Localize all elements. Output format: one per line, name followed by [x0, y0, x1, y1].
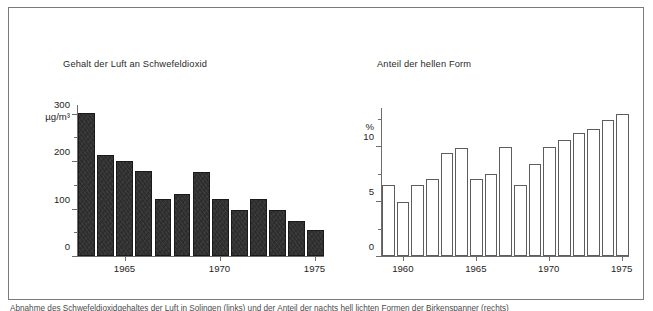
bar — [78, 113, 95, 256]
plot-area-morph: % 1960196519701975 0510 — [381, 108, 629, 257]
y-tick-label-morph: 10 — [363, 131, 374, 142]
y-tick-label-so2: 0 — [65, 241, 70, 252]
x-tick-label-morph: 1960 — [392, 263, 413, 274]
bar — [155, 199, 172, 256]
x-tick-so2 — [315, 257, 316, 261]
y-minor-tick-so2 — [74, 232, 77, 233]
bar — [307, 230, 324, 256]
y-minor-tick-morph — [378, 119, 381, 120]
y-tick-morph — [376, 146, 381, 147]
bar — [573, 133, 586, 256]
x-tick-so2 — [220, 257, 221, 261]
figure-frame: Gehalt der Luft an Schwefeldioxid µg/m³ … — [8, 7, 644, 300]
bar-group-morph — [382, 108, 629, 256]
y-minor-tick-so2 — [74, 185, 77, 186]
x-tick-label-so2: 1970 — [209, 263, 230, 274]
figure-caption: Abnahme des Schwefeldioxidgehaltes der L… — [10, 304, 630, 311]
bar — [485, 174, 498, 256]
x-tick-label-so2: 1975 — [304, 263, 325, 274]
y-tick-so2 — [72, 256, 77, 257]
x-tick-morph — [549, 257, 550, 261]
plot-area-so2: µg/m³ 196519701975 0100200300 — [77, 105, 324, 257]
chart-panel-so2: Gehalt der Luft an Schwefeldioxid µg/m³ … — [21, 8, 331, 299]
bar — [397, 202, 410, 256]
chart-title-so2: Gehalt der Luft an Schwefeldioxid — [63, 59, 207, 69]
x-tick-label-morph: 1970 — [538, 263, 559, 274]
y-tick-label-so2: 300 — [54, 98, 70, 109]
x-tick-morph — [622, 257, 623, 261]
bar — [616, 114, 629, 255]
bar — [529, 164, 542, 256]
bar — [97, 155, 114, 256]
bar — [288, 221, 305, 256]
bar — [514, 185, 527, 256]
y-minor-tick-so2 — [74, 137, 77, 138]
bar-group-so2 — [78, 105, 324, 256]
x-axis-labels-so2: 196519701975 — [77, 257, 324, 277]
bar — [250, 199, 267, 256]
y-axis-unit-so2: µg/m³ — [45, 110, 70, 121]
bar — [193, 172, 210, 256]
bar — [441, 153, 454, 256]
bar — [212, 199, 229, 256]
bar — [269, 210, 286, 256]
bar — [174, 194, 191, 256]
x-tick-label-morph: 1975 — [611, 263, 632, 274]
x-tick-morph — [476, 257, 477, 261]
y-tick-morph — [376, 256, 381, 257]
x-tick-label-morph: 1965 — [465, 263, 486, 274]
bar — [470, 179, 483, 256]
y-tick-label-morph: 0 — [369, 241, 374, 252]
y-tick-label-morph: 5 — [369, 186, 374, 197]
bar — [499, 147, 512, 255]
bar — [455, 148, 468, 255]
x-tick-morph — [403, 257, 404, 261]
x-tick-so2 — [125, 257, 126, 261]
y-minor-tick-morph — [378, 174, 381, 175]
x-tick-label-so2: 1965 — [114, 263, 135, 274]
chart-panel-morph: Anteil der hellen Form % 196019651970197… — [339, 8, 639, 299]
x-axis-labels-morph: 1960196519701975 — [381, 257, 629, 277]
y-tick-so2 — [72, 209, 77, 210]
y-tick-morph — [376, 201, 381, 202]
bar — [558, 140, 571, 256]
bar — [543, 147, 556, 255]
bar — [426, 179, 439, 256]
bar — [231, 210, 248, 256]
bar — [382, 185, 395, 256]
y-tick-label-so2: 100 — [54, 193, 70, 204]
bar — [411, 185, 424, 256]
y-tick-so2 — [72, 114, 77, 115]
bar — [116, 161, 133, 256]
y-tick-label-so2: 200 — [54, 146, 70, 157]
y-minor-tick-morph — [378, 229, 381, 230]
bar — [587, 129, 600, 256]
y-tick-so2 — [72, 161, 77, 162]
bar — [602, 120, 615, 256]
chart-title-morph: Anteil der hellen Form — [377, 59, 471, 69]
bar — [135, 171, 152, 256]
